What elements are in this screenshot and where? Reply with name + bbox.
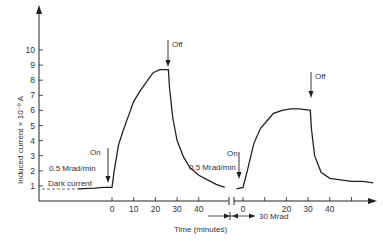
y-tick-label: 4 [30, 136, 35, 146]
y-tick-label: 1 [30, 181, 35, 191]
induced-current-chart: 12345678910 0102030400203040 Induced cur… [0, 0, 383, 244]
y-tick-label: 3 [30, 151, 35, 161]
y-tick-label: 10 [26, 45, 36, 55]
off1-label: Off [172, 40, 183, 49]
x-tick-label: 0 [110, 204, 115, 214]
y-tick-label: 6 [30, 105, 35, 115]
x-axis-label: Time (minutes) [174, 225, 227, 234]
rate1-label: 0.5 Mrad/min [49, 164, 96, 173]
on2-label: On [227, 149, 238, 158]
y-tick-label: 7 [30, 90, 35, 100]
y-tick-label: 2 [30, 166, 35, 176]
dose-label: 30 Mrad [259, 212, 288, 221]
y-tick-label: 8 [30, 75, 35, 85]
y-axis-arrow-icon [36, 5, 42, 14]
current-curve-2 [237, 109, 374, 189]
dark-current-label: Dark current [48, 179, 93, 188]
on1-label: On [90, 148, 101, 157]
x-axis-arrow-icon [368, 198, 377, 204]
x-tick-label: 30 [172, 204, 182, 214]
x-tick-label: 40 [325, 204, 335, 214]
rate2-label: 0.5 Mrad/min [189, 163, 236, 172]
y-tick-label: 5 [30, 121, 35, 131]
x-tick-label: 0 [241, 204, 246, 214]
x-tick-label: 20 [151, 204, 161, 214]
y-axis-label: Induced current × 10⁻⁹ A [16, 95, 25, 184]
x-ticks: 0102030400203040 [110, 197, 352, 214]
y-ticks: 12345678910 [26, 45, 43, 191]
x-tick-label: 30 [303, 204, 313, 214]
off2-label: Off [315, 72, 326, 81]
x-tick-label: 10 [129, 204, 139, 214]
x-tick-label: 40 [194, 204, 204, 214]
y-tick-label: 9 [30, 60, 35, 70]
